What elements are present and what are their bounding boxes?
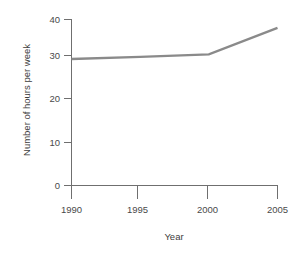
data-series-line xyxy=(72,28,278,59)
y-tick-label-10: 10 xyxy=(49,137,60,148)
x-axis-title: Year xyxy=(164,231,183,242)
x-tick-label-1995: 1995 xyxy=(127,204,148,215)
x-tick-label-1990: 1990 xyxy=(61,204,82,215)
y-tick-label-40: 40 xyxy=(49,14,60,25)
line-chart: 40 30 20 10 0 1990 1995 2000 2005 Year N… xyxy=(0,0,300,253)
y-axis-title: Number of hours per week xyxy=(21,44,32,156)
y-tick-label-0: 0 xyxy=(55,180,60,191)
x-tick-label-2005: 2005 xyxy=(267,204,288,215)
y-tick-label-20: 20 xyxy=(49,93,60,104)
y-tick-label-30: 30 xyxy=(49,50,60,61)
x-tick-label-2000: 2000 xyxy=(197,204,218,215)
chart-canvas: 40 30 20 10 0 1990 1995 2000 2005 Year N… xyxy=(0,0,300,253)
